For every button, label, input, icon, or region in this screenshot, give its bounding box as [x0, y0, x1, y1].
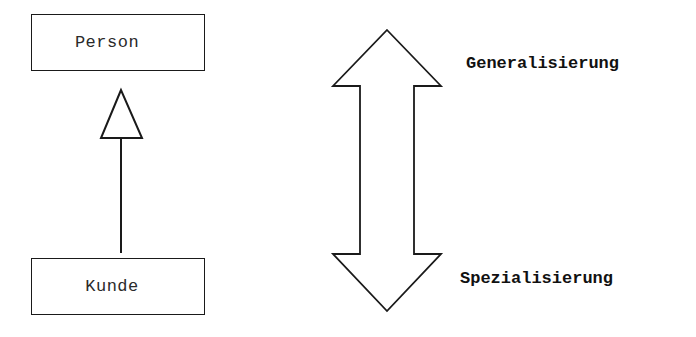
specialization-label: Spezialisierung [460, 269, 613, 288]
uml-generalization-diagram: Person Kunde Generalisierung Spezialisie… [0, 0, 696, 337]
generalization-label: Generalisierung [466, 54, 619, 73]
generalization-triangle-icon [101, 90, 142, 138]
class-name-person: Person [75, 33, 139, 52]
class-box-kunde: Kunde [31, 258, 205, 315]
double-arrow-icon [333, 30, 441, 311]
class-box-person: Person [31, 14, 205, 71]
class-name-kunde: Kunde [85, 277, 139, 296]
